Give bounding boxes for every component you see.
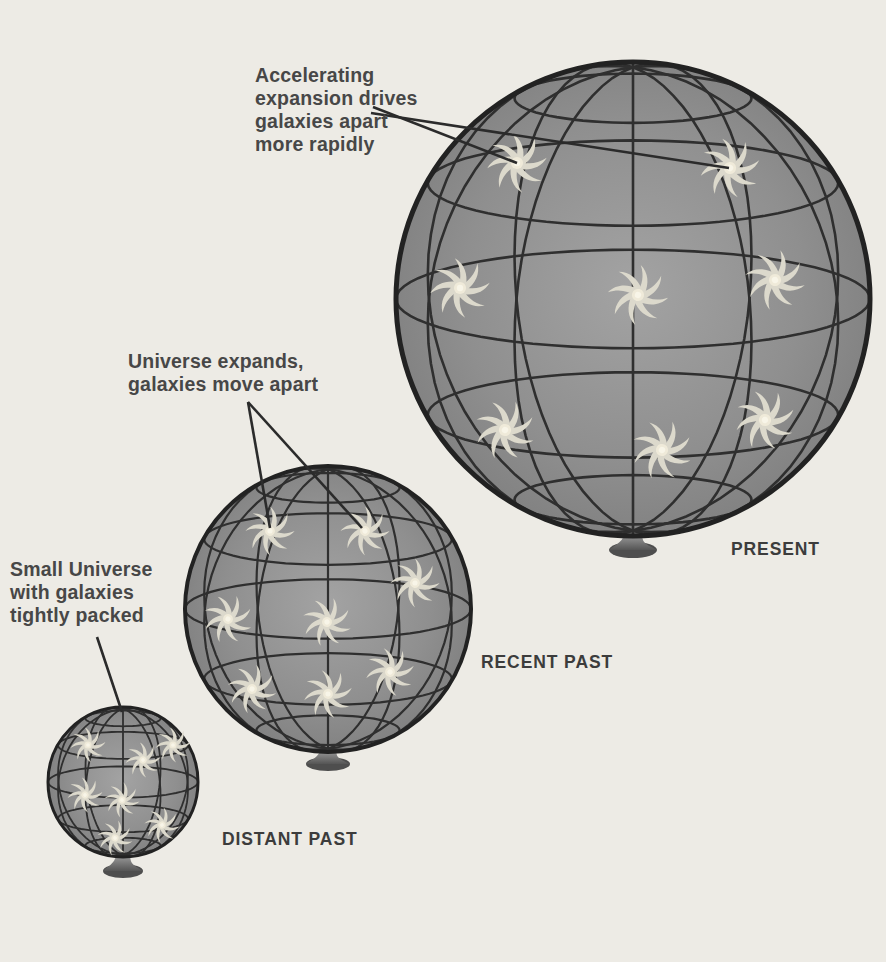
leader-line (97, 637, 122, 712)
label-recent-past: RECENT PAST (481, 652, 613, 673)
annotation-universe-expands: Universe expands, galaxies move apart (128, 350, 338, 396)
label-distant-past: DISTANT PAST (222, 829, 358, 850)
annotation-small-universe: Small Universe with galaxies tightly pac… (10, 558, 190, 627)
sphere-present (396, 62, 870, 558)
label-present: PRESENT (731, 539, 820, 560)
diagram-graphics (0, 0, 886, 962)
sphere-distant-past (48, 707, 198, 878)
sphere-recent-past (185, 466, 471, 771)
expanding-universe-diagram: Accelerating expansion drives galaxies a… (0, 0, 886, 962)
annotation-accelerating-expansion: Accelerating expansion drives galaxies a… (255, 64, 425, 156)
